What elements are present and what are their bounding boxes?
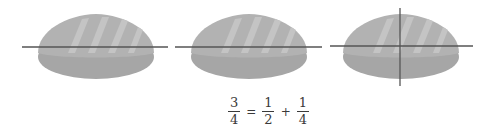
fraction-one-half: 1 2: [262, 96, 274, 127]
denominator: 4: [297, 113, 309, 127]
numerator: 1: [262, 96, 274, 110]
bread-3: [330, 8, 473, 86]
plus-sign: +: [281, 105, 291, 119]
fraction-equation: 3 4 = 1 2 + 1 4: [228, 96, 309, 127]
bread-1: [22, 14, 168, 79]
fraction-one-quarter: 1 4: [297, 96, 309, 127]
denominator: 4: [228, 113, 240, 127]
denominator: 2: [262, 113, 274, 127]
fraction-three-quarters: 3 4: [228, 96, 240, 127]
bread-2: [175, 14, 322, 79]
equals-sign: =: [246, 105, 256, 119]
numerator: 3: [228, 96, 240, 110]
numerator: 1: [297, 96, 309, 110]
